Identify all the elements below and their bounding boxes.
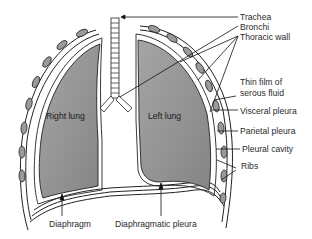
trachea: [111, 18, 119, 98]
label-parietal-pleura: Parietal pleura: [240, 126, 295, 136]
label-serous-fluid: serous fluid: [240, 88, 284, 98]
label-diaphragm: Diaphragm: [49, 219, 91, 229]
label-bronchi: Bronchi: [240, 22, 269, 32]
label-pleural-cavity: Pleural cavity: [242, 144, 293, 154]
right-lung-label: Right lung: [46, 111, 85, 121]
label-thoracic-wall: Thoracic wall: [240, 32, 290, 42]
label-visceral-pleura: Visceral pleura: [240, 106, 297, 116]
label-diaphragmatic-pleura: Diaphragmatic pleura: [115, 219, 197, 229]
label-ribs: Ribs: [241, 161, 258, 171]
left-lung-label: Left lung: [148, 111, 181, 121]
label-trachea: Trachea: [240, 12, 271, 22]
label-thin-film: Thin film of: [240, 77, 282, 87]
